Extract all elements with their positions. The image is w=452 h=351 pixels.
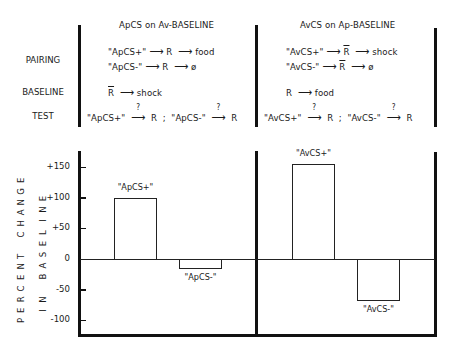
pairing-line: "AvCS+" ⟶ R ⟶ shock [286,45,397,58]
conditional-arrow-icon: ?⟶ [128,111,148,124]
test-line: "AvCS+" ?⟶ R ; "AvCS-" ?⟶ R [264,111,413,124]
bar [114,198,157,260]
y-tick-label: +50 [36,221,70,232]
bar [357,259,400,301]
y-tick [80,320,86,322]
bar [179,259,222,269]
chart-right-border [434,152,437,337]
y-axis-label-line-1: EGNAHC TNECREP [14,175,28,326]
bar-label: "AvCS-" [349,304,409,314]
panel-title-avcs: AvCS on Ap-BASELINE [300,19,395,30]
y-axis [78,151,81,337]
y-tick-label: +150 [36,160,70,171]
y-tick [80,167,86,169]
bar [292,164,335,260]
schematic-middle-divider [255,25,258,127]
row-label-test: TEST [13,110,73,121]
schematic-right-divider [434,28,437,127]
y-tick-label: -100 [36,313,70,324]
panel-title-apcs: ApCS on Av-BASELINE [119,19,214,30]
row-label-pairing: PAIRING [13,54,73,65]
baseline-line: R ⟶ food [286,86,334,99]
y-tick [80,228,86,230]
test-line: "ApCS+" ?⟶ R ; "ApCS-" ?⟶ R [87,111,237,124]
conditional-arrow-icon: ?⟶ [304,111,324,124]
y-tick-label: +100 [36,191,70,202]
pairing-line: "ApCS+" ⟶ R ⟶ food [108,45,214,58]
conditional-arrow-icon: ?⟶ [209,111,229,124]
schematic-left-divider [78,25,81,127]
bar-label: "ApCS+" [106,182,166,192]
chart-middle-divider [255,151,258,337]
y-tick [80,197,86,199]
pairing-line: "ApCS-" ⟶ R ⟶ ø [108,60,196,73]
y-tick-label: -50 [36,283,70,294]
y-tick [80,289,86,291]
bar-label: "ApCS-" [171,272,231,282]
y-tick-label: 0 [36,252,70,263]
conditional-arrow-icon: ?⟶ [384,111,404,124]
bar-label: "AvCS+" [284,148,344,158]
pairing-line: "AvCS-" ⟶ R ⟶ ø [286,60,373,73]
row-label-baseline: BASELINE [13,86,73,97]
x-axis-bottom [78,334,437,337]
baseline-line: R ⟶ shock [108,86,162,99]
